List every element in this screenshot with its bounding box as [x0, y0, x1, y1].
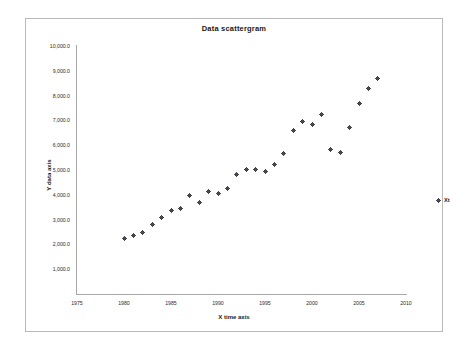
- y-axis-title: Y data axis: [46, 159, 52, 190]
- data-point: [264, 170, 267, 173]
- data-point: [207, 190, 210, 193]
- data-point: [292, 129, 295, 132]
- y-tick-label: 8,000.0: [24, 93, 70, 99]
- data-point: [273, 163, 276, 166]
- y-tick-label: 1,000.0: [24, 266, 70, 272]
- y-tick-label: 7,000.0: [24, 117, 70, 123]
- x-tick-label: 1975: [57, 300, 97, 306]
- data-point: [348, 126, 351, 129]
- x-tick-label: 2000: [292, 300, 332, 306]
- chart-frame: Data scattergram Y data axis X time axis…: [25, 18, 443, 332]
- data-point: [282, 152, 285, 155]
- y-tick-label: 5,000.0: [24, 167, 70, 173]
- data-point: [311, 123, 314, 126]
- data-point: [198, 201, 201, 204]
- data-point: [339, 151, 342, 154]
- data-point: [151, 223, 154, 226]
- data-point: [123, 237, 126, 240]
- data-point: [132, 234, 135, 237]
- y-tick-label: 3,000.0: [24, 217, 70, 223]
- y-tick-label: 4,000.0: [24, 192, 70, 198]
- x-tick-label: 2005: [339, 300, 379, 306]
- chart-title: Data scattergram: [26, 24, 442, 33]
- data-point: [188, 194, 191, 197]
- x-axis-line: [76, 294, 407, 295]
- data-point: [179, 207, 182, 210]
- data-point: [235, 173, 238, 176]
- data-point: [320, 113, 323, 116]
- x-tick-label: 1980: [104, 300, 144, 306]
- data-point: [376, 77, 379, 80]
- plus-marker-icon: [437, 199, 440, 202]
- data-point: [226, 187, 229, 190]
- data-point: [160, 216, 163, 219]
- data-point: [329, 148, 332, 151]
- data-point: [254, 168, 257, 171]
- x-tick-label: 1995: [245, 300, 285, 306]
- y-tick-label: 6,000.0: [24, 142, 70, 148]
- x-tick-label: 1990: [198, 300, 238, 306]
- data-point: [367, 87, 370, 90]
- legend-series-label: Xt: [442, 197, 450, 203]
- y-tick-label: 2,000.0: [24, 241, 70, 247]
- y-tick-label: 9,000.0: [24, 68, 70, 74]
- data-point: [245, 168, 248, 171]
- x-tick-label: 1985: [151, 300, 191, 306]
- plot-area: [77, 46, 406, 294]
- chart-legend: Xt: [437, 197, 450, 203]
- data-point: [141, 231, 144, 234]
- data-point: [217, 192, 220, 195]
- data-point: [301, 120, 304, 123]
- y-tick-label: 10,000.0: [24, 43, 70, 49]
- data-point: [358, 102, 361, 105]
- x-tick-label: 2010: [386, 300, 426, 306]
- data-point: [170, 209, 173, 212]
- x-axis-title: X time axis: [26, 314, 442, 320]
